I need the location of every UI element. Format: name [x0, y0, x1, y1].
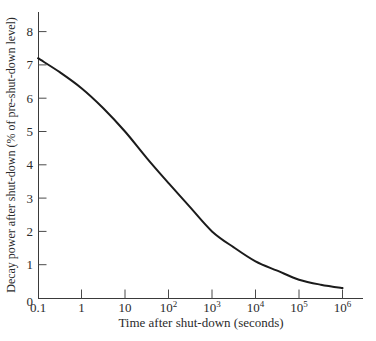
y-axis-ticks: 012345678	[27, 24, 47, 308]
y-tick-label: 3	[27, 191, 34, 206]
y-tick-label: 2	[27, 224, 34, 239]
x-tick-label: 104	[247, 299, 265, 315]
x-tick-label: 105	[290, 299, 308, 315]
curve-group	[38, 58, 343, 288]
x-tick-label: 1	[78, 300, 85, 315]
y-tick-label: 4	[27, 157, 34, 172]
x-axis-title: Time after shut-down (seconds)	[118, 315, 283, 330]
decay-power-curve	[38, 58, 343, 288]
y-tick-label: 8	[27, 24, 34, 39]
x-tick-label: 0.1	[30, 300, 46, 315]
x-tick-label: 106	[334, 299, 352, 315]
x-axis-ticks: 0.1110102103104105106	[30, 290, 352, 316]
y-tick-label: 5	[27, 124, 34, 139]
x-tick-label: 10	[119, 300, 132, 315]
figure-page: 012345678 0.1110102103104105106 Time aft…	[0, 0, 376, 341]
x-tick-label: 103	[203, 299, 221, 315]
y-axis-title: Decay power after shut-down (% of pre-sh…	[4, 17, 18, 293]
y-tick-label: 1	[27, 257, 34, 272]
decay-power-chart: 012345678 0.1110102103104105106 Time aft…	[0, 0, 376, 341]
y-tick-label: 6	[27, 91, 34, 106]
y-tick-label: 7	[27, 57, 34, 72]
x-tick-label: 102	[160, 299, 178, 315]
